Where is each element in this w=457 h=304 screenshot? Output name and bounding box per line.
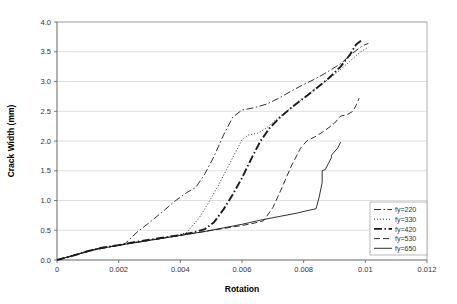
y-tick-label: 1.0 xyxy=(41,196,51,205)
series-line-fy-650 xyxy=(57,142,341,260)
x-axis-title: Rotation xyxy=(225,284,259,294)
y-tick-label: 1.5 xyxy=(41,166,51,175)
x-tick-label: 0.012 xyxy=(418,265,437,274)
legend-label-fy-420: fy=420 xyxy=(395,226,416,234)
chart-legend: fy=220fy=330fy=420fy=530fy=650 xyxy=(370,202,427,255)
x-tick-label: 0.004 xyxy=(171,265,190,274)
data-series-group xyxy=(57,40,368,260)
x-tick-label: 0 xyxy=(55,265,59,274)
series-line-fy-420 xyxy=(57,40,362,260)
x-tick-label: 0.002 xyxy=(109,265,128,274)
y-tick-label: 2.5 xyxy=(41,107,51,116)
legend-label-fy-220: fy=220 xyxy=(395,206,416,214)
x-tick-label: 0.008 xyxy=(294,265,313,274)
y-axis-title: Crack Width (mm) xyxy=(6,105,16,178)
y-tick-label: 0.5 xyxy=(41,226,51,235)
legend-label-fy-330: fy=330 xyxy=(395,216,416,224)
legend-label-fy-530: fy=530 xyxy=(395,235,416,243)
series-line-fy-220 xyxy=(57,43,368,260)
grid-lines xyxy=(57,22,427,230)
y-tick-label: 4.0 xyxy=(41,18,51,27)
series-line-fy-330 xyxy=(57,47,368,260)
x-tick-label: 0.006 xyxy=(233,265,252,274)
x-axis-ticks: 00.0020.0040.0060.0080.010.012 xyxy=(55,260,436,274)
crack-width-rotation-chart: 00.0020.0040.0060.0080.010.012 0.00.51.0… xyxy=(0,0,457,304)
y-tick-label: 0.0 xyxy=(41,256,51,265)
y-axis-ticks: 0.00.51.01.52.02.53.03.54.0 xyxy=(41,18,57,265)
y-tick-label: 3.5 xyxy=(41,47,51,56)
y-tick-label: 3.0 xyxy=(41,77,51,86)
x-tick-label: 0.01 xyxy=(358,265,373,274)
chart-canvas: 00.0020.0040.0060.0080.010.012 0.00.51.0… xyxy=(0,0,457,304)
series-line-fy-530 xyxy=(57,98,359,260)
y-tick-label: 2.0 xyxy=(41,137,51,146)
legend-label-fy-650: fy=650 xyxy=(395,245,416,253)
